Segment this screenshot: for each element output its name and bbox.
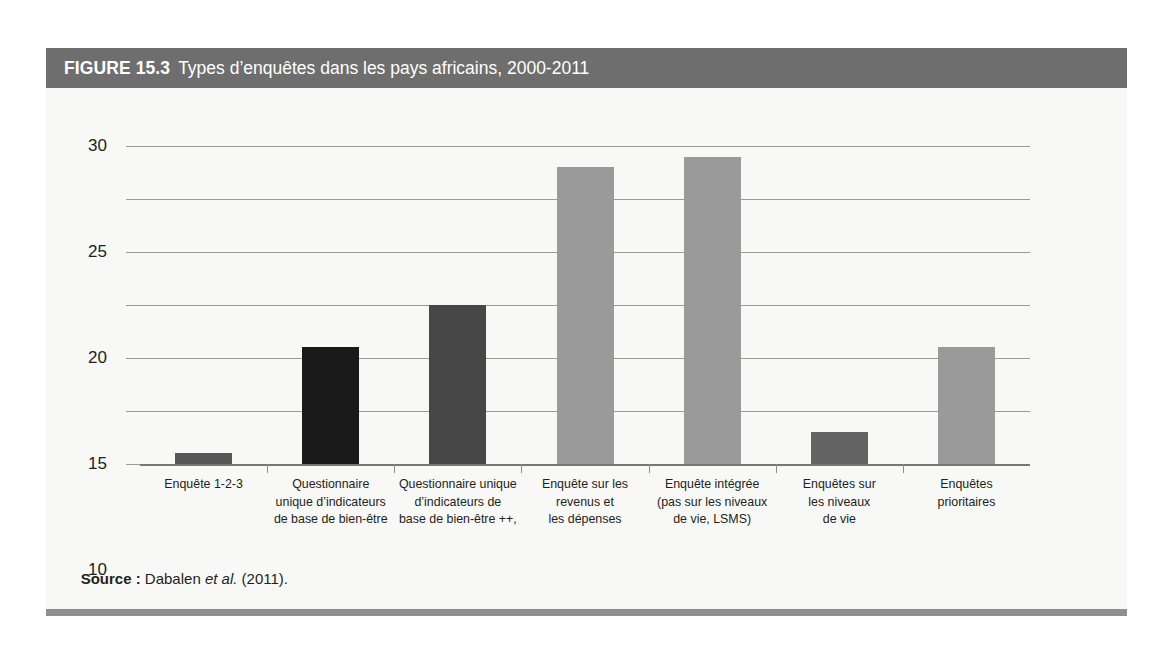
x-axis-label-line: base de bien-être ++, xyxy=(388,511,527,529)
y-tick-mark: 25 xyxy=(126,199,140,200)
x-axis-labels: Enquête 1-2-3Questionnaireunique d’indic… xyxy=(140,476,1030,546)
bar xyxy=(557,167,614,464)
source-label: Source : xyxy=(81,570,141,587)
x-axis-label: Enquête sur lesrevenus etles dépenses xyxy=(515,476,654,529)
y-tick-label: 25 xyxy=(88,242,107,262)
y-tick-mark: 10 xyxy=(126,358,140,359)
x-axis-label: Questionnaireunique d’indicateursde base… xyxy=(261,476,400,529)
x-tick-mark xyxy=(267,464,268,473)
x-axis-label: Enquêtesprioritaires xyxy=(897,476,1036,511)
x-axis-label-line: prioritaires xyxy=(897,494,1036,512)
x-axis-label-line: les dépenses xyxy=(515,511,654,529)
source-note: Source : Dabalen et al. (2011). xyxy=(64,553,288,604)
x-tick-mark xyxy=(394,464,395,473)
bar xyxy=(302,347,359,464)
y-tick-mark: 15 xyxy=(126,305,140,306)
x-axis-label-line: Enquête intégrée xyxy=(643,476,782,494)
x-axis-label-line: revenus et xyxy=(515,494,654,512)
x-tick-mark xyxy=(649,464,650,473)
y-tick-mark: 30 xyxy=(126,146,140,147)
x-axis-label-line: de base de bien-être xyxy=(261,511,400,529)
gridline xyxy=(140,146,1030,147)
x-axis-label-line: de vie, LSMS) xyxy=(643,511,782,529)
x-axis-label: Questionnaire uniqued’indicateurs debase… xyxy=(388,476,527,529)
bar-chart: 051015202530 Enquête 1-2-3Questionnaireu… xyxy=(46,88,1127,558)
bar xyxy=(684,157,741,464)
y-tick-label: 30 xyxy=(88,136,107,156)
x-axis-label-line: Enquête sur les xyxy=(515,476,654,494)
x-tick-mark xyxy=(903,464,904,473)
bar xyxy=(811,432,868,464)
x-axis-label-line: Enquêtes sur xyxy=(770,476,909,494)
x-axis-label-line: unique d’indicateurs xyxy=(261,494,400,512)
x-axis-label-line: les niveaux xyxy=(770,494,909,512)
x-axis-label-line: Enquêtes xyxy=(897,476,1036,494)
source-etal: et al. xyxy=(205,570,238,587)
figure-header: FIGURE 15.3 Types d’enquêtes dans les pa… xyxy=(46,48,1127,88)
x-axis-label-line: d’indicateurs de xyxy=(388,494,527,512)
y-tick-mark: 0 xyxy=(126,464,140,465)
figure-title: Types d’enquêtes dans les pays africains… xyxy=(178,58,589,79)
source-year: (2011). xyxy=(237,570,288,587)
bar xyxy=(429,305,486,464)
x-tick-mark xyxy=(776,464,777,473)
y-tick-mark: 20 xyxy=(126,252,140,253)
bar xyxy=(175,453,232,464)
x-axis-label-line: Questionnaire xyxy=(261,476,400,494)
x-axis-line xyxy=(140,464,1030,466)
x-axis-label-line: (pas sur les niveaux xyxy=(643,494,782,512)
x-axis-label-line: Questionnaire unique xyxy=(388,476,527,494)
figure-number: FIGURE 15.3 xyxy=(64,58,170,79)
y-tick-mark: 5 xyxy=(126,411,140,412)
source-author: Dabalen xyxy=(141,570,205,587)
x-axis-label-line: Enquête 1-2-3 xyxy=(134,476,273,494)
figure-panel: FIGURE 15.3 Types d’enquêtes dans les pa… xyxy=(46,48,1127,613)
bar xyxy=(938,347,995,464)
y-tick-label: 15 xyxy=(88,454,107,474)
x-axis-label: Enquêtes surles niveauxde vie xyxy=(770,476,909,529)
x-tick-mark xyxy=(521,464,522,473)
y-tick-label: 20 xyxy=(88,348,107,368)
x-axis-label: Enquête intégrée(pas sur les niveauxde v… xyxy=(643,476,782,529)
x-axis-label-line: de vie xyxy=(770,511,909,529)
bottom-rule xyxy=(46,609,1127,616)
x-axis-label: Enquête 1-2-3 xyxy=(134,476,273,494)
plot-area: 051015202530 xyxy=(140,146,1030,464)
